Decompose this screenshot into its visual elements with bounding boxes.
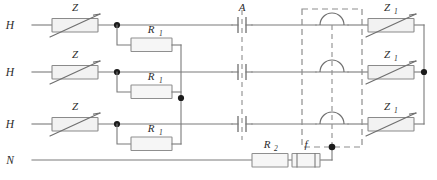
resistor-r2-label: R [263,138,271,150]
varistor-out-3-subscript: 1 [394,106,398,115]
resistor-r1-2-body [131,85,172,99]
varistor-out-1-subscript: 1 [394,7,398,16]
resistor-r1-1-body [131,38,172,52]
resistor-r1-1-subscript: 1 [159,29,163,38]
varistor-in-1: Z [50,1,100,37]
varistor-out-1: Z 1 [366,1,416,37]
resistor-r1-1-label: R [147,23,155,35]
resistor-r2: R 2 [252,138,288,167]
resistor-r1-3: R 1 [117,122,181,151]
varistor-in-1-label: Z [72,1,79,13]
contact-a-label: A [238,1,246,13]
varistor-out-1-label: Z [384,1,391,13]
spark-gap-assembly [302,9,362,147]
spark-gap-1-arc [320,13,344,25]
junction-output-bus [421,69,427,75]
varistor-in-2: Z [50,48,100,84]
schematic-canvas: Z Z Z R 1 R 1 R 1 [0,0,437,180]
resistor-r1-2-subscript: 1 [159,76,163,85]
terminal-label-n: N [5,154,15,166]
varistor-out-3-label: Z [384,100,391,112]
junction-r1-bus [178,95,184,101]
wire-r1-2-in [117,72,131,92]
resistor-r2-body [252,154,288,168]
spark-gap-1 [316,13,348,25]
varistor-out-3: Z 1 [366,100,416,136]
resistor-r1-3-body [131,137,172,151]
resistor-r1-2-label: R [147,70,155,82]
terminal-label-h1: H [5,19,15,31]
varistor-in-3: Z [50,100,100,136]
wire-r1-3-in [117,124,131,144]
terminal-label-h2: H [5,66,15,78]
fuse-f-label: f [304,138,309,150]
junction-gap-bottom [329,144,336,151]
terminal-label-h3: H [5,118,15,130]
fuse-f-body [292,154,320,168]
varistor-out-2-subscript: 1 [394,54,398,63]
circuit-diagram: Z Z Z R 1 R 1 R 1 [0,0,437,180]
contact-a-assembly: A [232,1,252,140]
resistor-r1-2: R 1 [117,70,181,99]
wire-r1-1-in [117,25,131,45]
varistor-in-2-label: Z [72,48,79,60]
resistor-r1-3-label: R [147,122,155,134]
resistor-r2-subscript: 2 [274,144,278,153]
fuse-f: f [292,138,320,167]
varistor-out-2-label: Z [384,48,391,60]
resistor-r1-3-subscript: 1 [159,128,163,137]
varistor-in-3-label: Z [72,100,79,112]
varistor-out-2: Z 1 [366,48,416,84]
resistor-r1-1: R 1 [117,23,181,52]
